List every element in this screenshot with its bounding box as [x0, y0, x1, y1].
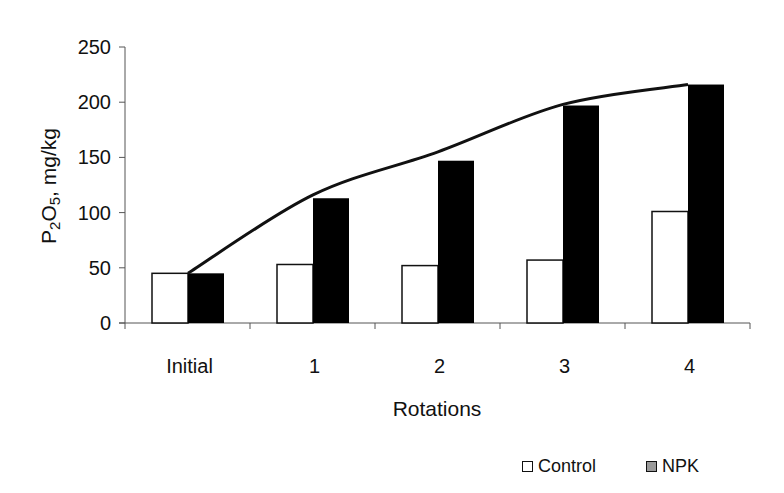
bar-npk [688, 85, 724, 323]
legend-item-control: Control [522, 456, 596, 477]
legend-label-control: Control [538, 456, 596, 477]
y-tick-label: 250 [78, 36, 111, 58]
bar-control [152, 273, 188, 323]
legend-item-npk: NPK [646, 456, 699, 477]
bars [152, 85, 724, 323]
legend-swatch-npk [646, 461, 657, 472]
y-axis-title: P2O5, mg/kg [37, 128, 63, 244]
bar-npk [438, 161, 474, 323]
bar-control [402, 266, 438, 323]
x-tick-label: 2 [434, 355, 445, 377]
bar-chart: 050100150200250 Initial1234 Rotations P2… [0, 0, 784, 493]
bar-control [277, 264, 313, 323]
y-tick-label: 0 [100, 312, 111, 334]
bar-control [527, 260, 563, 323]
y-axis: 050100150200250 [78, 36, 125, 334]
y-tick-label: 100 [78, 202, 111, 224]
legend: Control NPK [522, 456, 699, 477]
y-tick-label: 200 [78, 91, 111, 113]
legend-label-npk: NPK [662, 456, 699, 477]
y-tick-label: 50 [89, 257, 111, 279]
x-axis-title: Rotations [393, 397, 482, 420]
bar-npk [313, 198, 349, 323]
y-tick-label: 150 [78, 146, 111, 168]
x-tick-label: 1 [309, 355, 320, 377]
bar-npk [563, 106, 599, 323]
bar-control [652, 211, 688, 323]
legend-swatch-control [522, 461, 533, 472]
x-axis: Initial1234 [119, 323, 750, 377]
x-tick-label: 3 [559, 355, 570, 377]
x-tick-label: 4 [684, 355, 695, 377]
bar-npk [188, 273, 224, 323]
x-tick-label: Initial [166, 355, 213, 377]
